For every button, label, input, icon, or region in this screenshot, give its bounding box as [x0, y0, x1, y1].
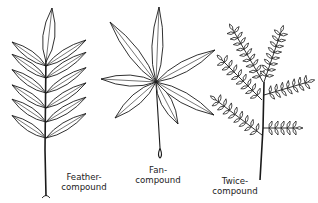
twice-branch-2-leaflet-2a [268, 69, 276, 72]
twice-branch-3-leaflet-4b [236, 81, 243, 84]
twice-branch-5-leaflet-3a [245, 115, 248, 122]
twice-branch-1-leaflet-5b [240, 54, 248, 57]
twice-branch-5-leaflet-4a [240, 111, 243, 118]
twice-branch-4-leaflet-1a [270, 93, 275, 99]
twice-branch-2-leaflet-3b [264, 59, 270, 64]
twice-branch-5-terminal [210, 96, 216, 100]
twice-branch-3-leaflet-1a [257, 88, 260, 95]
twice-branch-1-leaflet-6a [244, 43, 249, 49]
fan-compound-label: Fan- compound [134, 165, 182, 185]
twice-branch-3-leaflet-6a [234, 65, 237, 72]
twice-branch-5-leaflet-6a [229, 103, 232, 110]
twice-branch-5-leaflet-5b [228, 114, 235, 118]
twice-branch-1-leaflet-7b [233, 43, 241, 46]
twice-branch-2-leaflet-6b [270, 42, 276, 47]
twice-branch-5-leaflet-6b [223, 110, 230, 114]
twice-branch-4-leaflet-5a [293, 86, 298, 92]
twice-branch-4-leaflet-4a [287, 88, 292, 94]
twice-branch-2-leaflet-8b [274, 30, 280, 35]
twice-branch-3-leaflet-2b [246, 90, 253, 93]
feather-label-line-2: compound [58, 182, 110, 192]
twice-branch-6-leaflet-3b [281, 121, 284, 128]
twice-branch-5-leaflet-7a [224, 99, 227, 106]
twice-compound-label: Twice- compound [210, 176, 260, 196]
twice-branch-6-terminal [296, 127, 303, 130]
twice-branch-2-leaflet-4a [272, 57, 280, 60]
twice-branch-2-leaflet-4b [266, 53, 272, 58]
twice-label-line-1: Twice- [210, 176, 260, 186]
twice-branch-3-terminal [217, 55, 222, 60]
twice-branch-6-leaflet-2a [275, 128, 278, 135]
twice-branch-2-leaflet-5b [268, 47, 274, 52]
fan-compound-leaf [101, 7, 215, 158]
twice-branch-5-leaflet-4b [234, 118, 241, 122]
twice-branch-4-leaflet-3a [282, 90, 287, 96]
feather-compound-label: Feather- compound [58, 172, 110, 192]
twice-branch-1-leaflet-8b [230, 37, 238, 40]
twice-branch-4-leaflet-2a [276, 92, 281, 98]
twice-branch-3-leaflet-4a [243, 74, 246, 81]
feather-stalk-base [42, 196, 50, 199]
twice-branch-6-leaflet-4a [287, 128, 290, 135]
twice-branch-3-leaflet-1b [250, 95, 257, 98]
twice-branch-2-leaflet-6a [276, 45, 284, 48]
twice-branch-6-leaflet-5b [293, 121, 296, 128]
fan-leaflet-2-vein [110, 22, 156, 82]
twice-main-stem [260, 82, 264, 180]
fan-label-line-1: Fan- [134, 165, 182, 175]
twice-compound-leaf [210, 24, 314, 180]
twice-branch-4-terminal [308, 80, 315, 83]
twice-branch-1-leaflet-2b [249, 70, 257, 73]
twice-branch-1-leaflet-4a [250, 54, 255, 60]
fan-leaflet-7-vein [156, 50, 215, 82]
twice-branch-1-leaflet-3a [254, 59, 259, 65]
twice-branch-1-leaflet-5a [247, 49, 252, 55]
twice-branch-2-leaflet-5a [274, 51, 282, 54]
twice-branch-1-leaflet-2a [257, 65, 262, 71]
twice-branch-4-leaflet-6a [299, 85, 304, 91]
twice-branch-5-leaflet-3b [239, 123, 246, 127]
fan-leaflet-4-vein [115, 82, 156, 118]
twice-branch-6-leaflet-1b [269, 121, 272, 128]
twice-branch-3-leaflet-3a [248, 79, 251, 86]
twice-branch-3-leaflet-8b [217, 62, 224, 65]
compound-leaf-diagram: Feather- compound Fan- compound Twice- c… [0, 0, 318, 203]
twice-branch-2-leaflet-7a [278, 39, 286, 42]
twice-branch-5-leaflet-1b [250, 131, 257, 135]
twice-branch-2-leaflet-3a [270, 63, 278, 66]
twice-branch-4-leaflet-7a [305, 83, 310, 89]
twice-label-line-2: compound [210, 186, 260, 196]
twice-branch-3-leaflet-7b [222, 67, 229, 70]
twice-branch-3-leaflet-5b [231, 76, 238, 79]
twice-branch-6-leaflet-1a [269, 128, 272, 135]
twice-branch-5-leaflet-2a [251, 119, 254, 126]
twice-branch-4-leaflet-5b [292, 79, 295, 87]
twice-branch-1-leaflet-3b [246, 65, 254, 68]
twice-branch-1-leaflet-4b [243, 59, 251, 62]
twice-branch-3-leaflet-7a [229, 60, 232, 67]
twice-branch-2-leaflet-1a [266, 75, 274, 78]
twice-branch-1-leaflet-7a [241, 38, 246, 44]
fan-label-line-2: compound [134, 175, 182, 185]
twice-branch-4-leaflet-7b [304, 75, 307, 83]
twice-branch-3-leaflet-8a [224, 55, 227, 62]
twice-branch-2-leaflet-2b [262, 65, 268, 70]
twice-branch-6-leaflet-5a [293, 128, 296, 135]
twice-branch-5-leaflet-1a [256, 123, 259, 130]
twice-branch-6-leaflet-4b [287, 121, 290, 128]
twice-branch-5-rachis [216, 100, 262, 135]
twice-branch-2-leaflet-7b [272, 36, 278, 41]
twice-branch-6-leaflet-3a [281, 128, 284, 135]
twice-branch-4-leaflet-4b [287, 81, 290, 89]
feather-compound-leaf [12, 8, 86, 198]
twice-branch-3-rachis [222, 60, 262, 100]
twice-branch-2-terminal [281, 25, 284, 32]
twice-branch-5-leaflet-2b [245, 127, 252, 131]
twice-branch-4-leaflet-6b [298, 77, 301, 85]
twice-branch-3-leaflet-5a [238, 69, 241, 76]
twice-branch-5-leaflet-8a [218, 95, 221, 102]
feather-rachis [45, 52, 46, 196]
twice-branch-1-leaflet-1b [252, 76, 260, 79]
twice-branch-2-leaflet-8a [280, 33, 288, 36]
twice-branch-1-leaflet-8a [238, 32, 243, 38]
